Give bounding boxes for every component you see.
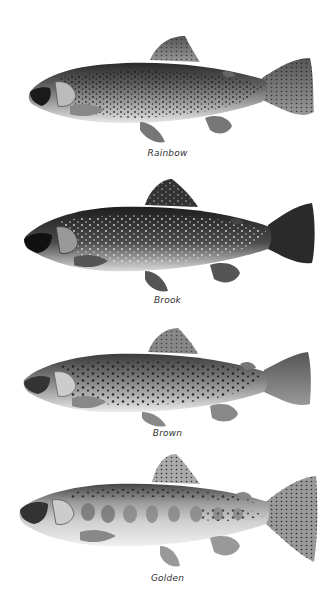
golden-trout-illustration bbox=[0, 452, 335, 577]
fish-panel-golden: Golden bbox=[0, 452, 335, 607]
brown-trout-illustration bbox=[0, 322, 335, 432]
rainbow-trout-illustration bbox=[0, 30, 335, 150]
fish-panel-brook: Brook bbox=[0, 175, 335, 315]
fish-label-brown: Brown bbox=[0, 428, 335, 438]
brook-trout-illustration bbox=[0, 175, 335, 295]
fish-label-golden: Golden bbox=[0, 573, 335, 583]
fish-label-brook: Brook bbox=[0, 295, 335, 305]
fish-panel-brown: Brown bbox=[0, 322, 335, 452]
fish-panel-rainbow: Rainbow bbox=[0, 30, 335, 170]
fish-label-rainbow: Rainbow bbox=[0, 148, 335, 158]
